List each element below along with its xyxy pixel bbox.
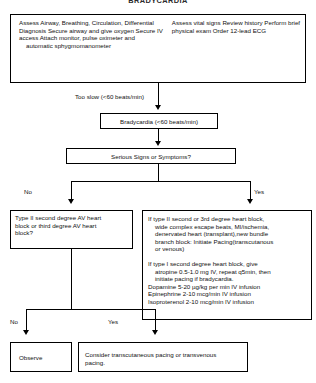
treatment-line-4: branch block: Initiate Pacing(transcutan… xyxy=(148,238,307,246)
assessment-right-text: Assess vital signs Review history Perfor… xyxy=(172,19,305,34)
connector-serious-split xyxy=(71,181,251,182)
arrowhead-to-serious-signs xyxy=(155,141,161,146)
connector-heartblock-no-drop xyxy=(26,309,27,332)
arrowhead-to-bradycardia xyxy=(155,105,161,110)
heart-block-question-label: Type II second degree AV heart block or … xyxy=(11,211,132,240)
treatment-line-7: atropine 0.5-1.0 mg IV, repeat q5min, th… xyxy=(148,268,307,276)
serious-signs-decision: Serious Signs or Symptoms? xyxy=(66,148,236,164)
connector-serious-stem xyxy=(158,164,159,182)
treatment-line-1: If type II second or 3rd degree heart bl… xyxy=(148,215,307,223)
treatment-line-8: initiate pacing if bradycardia. xyxy=(148,275,307,283)
branch-label-yes-2: Yes xyxy=(108,318,118,325)
branch-label-yes-1: Yes xyxy=(254,188,264,195)
bradycardia-algorithm-flowchart: BRADYCARDIA Assess Airway, Breathing, Ci… xyxy=(0,0,316,383)
treatment-line-9: Dopamine 5-20 µg/kg per min IV infusion xyxy=(148,283,307,291)
connector-serious-yes-drop xyxy=(250,181,251,201)
bradycardia-node: Bradycardia (<60 beats/min) xyxy=(100,113,218,129)
too-slow-label: Too slow (<60 beats/min) xyxy=(75,93,144,100)
treatment-line-11: Isoproterenol 2-10 mcg/min IV infusion xyxy=(148,298,307,306)
initial-assessment-box: Assess Airway, Breathing, Circulation, D… xyxy=(10,14,306,83)
connector-heartblock-split xyxy=(26,309,156,310)
assessment-left-text-cont: automatic sphygmomanometer xyxy=(19,42,168,50)
consider-pacing-node: Consider transcutaneous pacing or transv… xyxy=(78,342,248,372)
connector-assessment-to-bradycardia xyxy=(158,83,159,106)
treatment-line-3: denervated heart (transplant),new bundle xyxy=(148,230,307,238)
treatment-line-5: or venous) xyxy=(148,245,307,253)
connector-serious-no-drop xyxy=(71,181,72,201)
consider-pacing-label: Consider transcutaneous pacing or transv… xyxy=(79,343,247,369)
serious-signs-label: Serious Signs or Symptoms? xyxy=(67,149,235,164)
observe-label: Observe xyxy=(11,343,71,365)
branch-label-no-2: No xyxy=(10,318,18,325)
arrowhead-observe xyxy=(23,330,29,335)
treatment-line-10: Epinephrine 2-10 mcg/min IV infusion xyxy=(148,290,307,298)
treatment-options-box: If type II second or 3rd degree heart bl… xyxy=(142,210,312,320)
page-title: BRADYCARDIA xyxy=(0,0,316,4)
arrowhead-serious-no xyxy=(68,199,74,204)
observe-node: Observe xyxy=(10,342,72,372)
arrowhead-serious-yes xyxy=(247,199,253,204)
bradycardia-label: Bradycardia (<60 beats/min) xyxy=(101,114,217,129)
treatment-line-2: wide complex escape beats, MI/ischemia, xyxy=(148,223,307,231)
assessment-left-text: Assess Airway, Breathing, Circulation, D… xyxy=(19,19,168,42)
branch-label-no-1: No xyxy=(24,188,32,195)
connector-heartblock-yes-drop xyxy=(155,309,156,332)
treatment-line-6: If type I second degree heart block, giv… xyxy=(148,260,307,268)
treatment-spacer xyxy=(148,253,307,260)
arrowhead-consider-pacing xyxy=(152,330,158,335)
heart-block-question-node: Type II second degree AV heart block or … xyxy=(10,210,133,249)
connector-heartblock-stem xyxy=(71,249,72,310)
